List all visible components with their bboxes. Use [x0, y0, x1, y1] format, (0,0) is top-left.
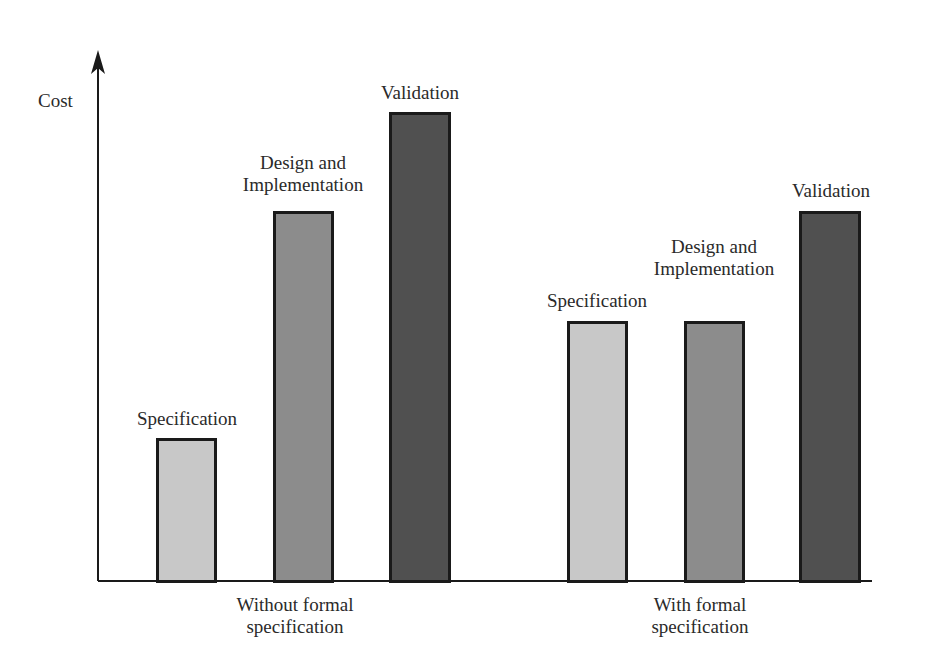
bar-label-with-validation: Validation [786, 180, 876, 202]
group-label-without-formal-specification: Without formal specification [200, 594, 390, 638]
bar-without-design-implementation [273, 211, 334, 583]
bar-label-with-specification: Specification [532, 290, 662, 312]
bar-without-specification [156, 438, 217, 583]
bar-with-validation [799, 211, 861, 583]
label-line: With formal [620, 594, 780, 616]
label-line: Design and [634, 236, 794, 258]
bar-label-with-design-implementation: Design and Implementation [634, 236, 794, 280]
bar-with-specification [567, 321, 628, 583]
label-line: specification [200, 616, 390, 638]
bar-without-validation [389, 112, 451, 583]
label-line: Implementation [223, 174, 383, 196]
bar-label-without-validation: Validation [375, 82, 465, 104]
label-line: Implementation [634, 258, 794, 280]
group-label-with-formal-specification: With formal specification [620, 594, 780, 638]
label-line: Design and [223, 152, 383, 174]
bar-label-without-design-implementation: Design and Implementation [223, 152, 383, 196]
label-line: specification [620, 616, 780, 638]
bar-label-without-specification: Specification [122, 408, 252, 430]
cost-comparison-chart: Cost Specification Design and Implementa… [0, 0, 928, 672]
y-axis-label: Cost [38, 90, 73, 112]
label-line: Without formal [200, 594, 390, 616]
bar-with-design-implementation [684, 321, 745, 583]
